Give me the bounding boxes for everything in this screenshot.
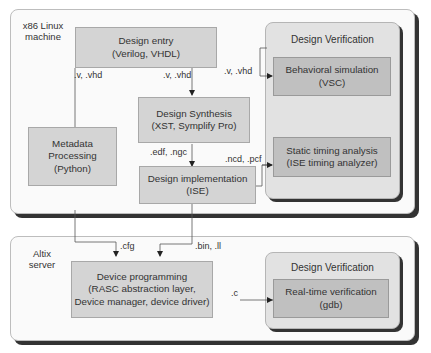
realtime-verification-node: Real-time verification (gdb) (273, 279, 389, 318)
edge-label-implementation-to-timing: .ncd, .pcf (225, 154, 262, 164)
design-implementation-node: Design implementation (ISE) (139, 166, 256, 204)
edge-label-synthesis-to-implementation: .edf, .ngc (150, 147, 187, 157)
behavioral-simulation-node: Behavioral simulation (VSC) (273, 57, 391, 96)
edge-label-programming-to-realtime: .c (231, 288, 238, 298)
design-synthesis-node: Design Synthesis (XST, Symplify Pro) (138, 97, 250, 143)
edge-label-entry-to-behavioral: .v, .vhd (224, 66, 252, 76)
static-timing-analysis-node: Static timing analysis (ISE timing analy… (273, 137, 391, 177)
edge-label-entry-to-synthesis: .v, .vhd (163, 70, 191, 80)
device-programming-node: Device programming (RASC abstraction lay… (71, 261, 213, 318)
design-entry-node: Design entry (Verilog, VHDL) (75, 27, 217, 68)
metadata-processing-node: Metadata Processing (Python) (28, 127, 117, 186)
edge-label-entry-to-metadata: .v, .vhd (74, 70, 102, 80)
edge-label-implementation-to-programming: .bin, .ll (195, 241, 221, 251)
edge-label-metadata-to-programming: .cfg (120, 241, 135, 251)
